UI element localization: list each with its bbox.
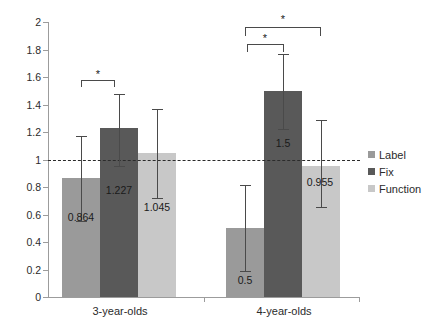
bar-value-4-year-olds-function: 0.955 bbox=[294, 177, 346, 188]
bar-value-3-year-olds-function: 1.045 bbox=[131, 202, 183, 213]
y-tick-label: 1 bbox=[1, 155, 41, 165]
significance-bracket-4-year-olds-label-fix bbox=[247, 44, 284, 45]
error-bar-cap-upper bbox=[152, 109, 163, 110]
significance-bracket-leg bbox=[81, 80, 82, 87]
y-tick-label: 0.4 bbox=[1, 237, 41, 247]
error-bar-cap-upper bbox=[114, 94, 125, 95]
x-group-label-3-year-olds: 3-year-olds bbox=[68, 305, 172, 318]
plot-area: 0.864 1.227 1.045 0.5 1.5 0.955 * * * bbox=[48, 22, 360, 297]
significance-star: * bbox=[245, 33, 285, 43]
error-bar-4-year-olds-fix bbox=[283, 54, 284, 128]
error-bar-4-year-olds-label bbox=[245, 185, 246, 271]
x-tick-mark bbox=[204, 297, 205, 302]
error-bar-cap-lower bbox=[316, 207, 327, 208]
y-tick-label: 1.4 bbox=[1, 100, 41, 110]
y-tick-label: 1.6 bbox=[1, 72, 41, 82]
reference-line-at-one bbox=[48, 160, 360, 161]
bar-value-3-year-olds-fix: 1.227 bbox=[93, 185, 145, 196]
error-bar-cap-upper bbox=[76, 136, 87, 137]
significance-bracket-leg bbox=[320, 27, 321, 36]
bar-value-4-year-olds-fix: 1.5 bbox=[260, 138, 306, 149]
legend-swatch-icon bbox=[368, 151, 375, 158]
y-tick-label: 0.2 bbox=[1, 265, 41, 275]
error-bar-3-year-olds-fix bbox=[119, 94, 120, 166]
error-bar-cap-lower bbox=[152, 198, 163, 199]
x-tick-mark bbox=[359, 297, 360, 302]
significance-bracket-leg bbox=[245, 27, 246, 36]
significance-star: * bbox=[263, 14, 303, 24]
error-bar-3-year-olds-label bbox=[81, 136, 82, 221]
bar-value-4-year-olds-label: 0.5 bbox=[222, 275, 268, 286]
error-bar-cap-upper bbox=[240, 185, 251, 186]
y-tick-label: 1.2 bbox=[1, 127, 41, 137]
y-tick-label: 2 bbox=[1, 17, 41, 27]
error-bar-cap-upper bbox=[278, 54, 289, 55]
significance-bracket-leg bbox=[114, 80, 115, 87]
y-tick-label: 0.8 bbox=[1, 182, 41, 192]
error-bar-3-year-olds-function bbox=[157, 109, 158, 198]
error-bar-cap-upper bbox=[316, 120, 327, 121]
significance-bracket-3-year-olds-label-fix bbox=[81, 80, 115, 81]
significance-bracket-4-year-olds-label-function bbox=[245, 27, 321, 28]
bar-value-3-year-olds-label: 0.864 bbox=[55, 212, 107, 223]
significance-star: * bbox=[78, 69, 118, 79]
x-group-label-4-year-olds: 4-year-olds bbox=[232, 305, 336, 318]
legend-swatch-icon bbox=[368, 168, 375, 175]
legend-label-text: Function bbox=[379, 183, 421, 195]
bar-chart: 2 1.8 1.6 1.4 1.2 1 0.8 bbox=[0, 0, 433, 336]
y-tick-label: 0.6 bbox=[1, 210, 41, 220]
legend: Label Fix Function bbox=[368, 146, 432, 197]
y-tick-label: 0 bbox=[1, 292, 41, 302]
legend-label-text: Fix bbox=[379, 166, 394, 178]
legend-item-label[interactable]: Label bbox=[368, 146, 432, 163]
legend-item-function[interactable]: Function bbox=[368, 180, 432, 197]
legend-item-fix[interactable]: Fix bbox=[368, 163, 432, 180]
error-bar-cap-lower bbox=[278, 129, 289, 130]
y-tick-label: 1.8 bbox=[1, 45, 41, 55]
legend-swatch-icon bbox=[368, 185, 375, 192]
significance-bracket-leg bbox=[283, 44, 284, 52]
significance-bracket-leg bbox=[247, 44, 248, 52]
error-bar-cap-lower bbox=[114, 166, 125, 167]
error-bar-cap-lower bbox=[240, 271, 251, 272]
error-bar-4-year-olds-function bbox=[321, 120, 322, 207]
legend-label-text: Label bbox=[379, 149, 406, 161]
